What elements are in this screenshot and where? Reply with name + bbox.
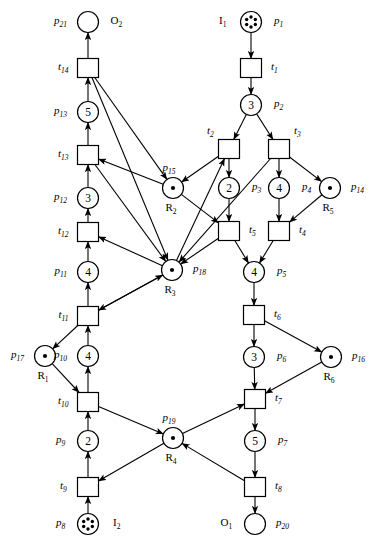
place-label-p8: p8	[56, 517, 65, 531]
resource-label-p18: R3	[165, 284, 176, 298]
place-label-p19: p19	[163, 412, 176, 426]
place-p3: 2	[219, 178, 240, 199]
transition-label-t6: t6	[274, 308, 281, 322]
arc-t6-to-p16	[265, 321, 322, 352]
place-capacity: 3	[251, 351, 257, 363]
arc-t5-to-p5	[235, 241, 249, 264]
place-p16	[321, 347, 342, 368]
place-p4: 4	[269, 178, 290, 199]
transition-t13	[78, 146, 99, 165]
place-p20	[245, 514, 266, 535]
resource-label-p17: R1	[38, 370, 49, 384]
place-label-p20: p20	[276, 517, 289, 531]
place-label-p18: p18	[193, 263, 206, 277]
arc-p18-to-t2	[176, 159, 224, 261]
arc-t8-to-p19	[182, 443, 244, 480]
arc-p17-to-t10	[52, 364, 79, 393]
place-label-p12: p12	[54, 191, 67, 205]
place-p7: 5	[245, 431, 266, 452]
transition-t1	[241, 59, 262, 78]
place-p11: 4	[78, 262, 99, 283]
place-capacity: 2	[226, 182, 232, 194]
transition-t4	[269, 222, 290, 241]
place-capacity: 4	[85, 266, 91, 278]
transition-t2	[219, 140, 240, 159]
arc-t14-to-p15	[95, 78, 167, 180]
place-label-p7: p7	[278, 434, 287, 448]
transition-label-t8: t8	[275, 480, 282, 494]
transition-t8	[245, 478, 266, 497]
resource-label-p15: R2	[166, 202, 177, 216]
transition-label-t13: t13	[58, 148, 69, 162]
arc-t4-to-p5	[259, 241, 273, 264]
place-p10: 4	[78, 346, 99, 367]
arc-p2-to-t2	[234, 114, 247, 139]
place-capacity: 3	[248, 99, 254, 111]
place-p8	[78, 514, 99, 535]
place-p6: 3	[244, 347, 265, 368]
petri-net-diagram: 53442324435 p21O2p13p12p11p10p9p8I2p1I1p…	[0, 0, 375, 546]
arc-p18-to-t11	[99, 275, 163, 310]
transition-t3	[269, 140, 290, 159]
transition-label-t2: t2	[207, 125, 214, 139]
arc-p15-to-t5	[181, 194, 218, 223]
transition-t14	[78, 59, 99, 78]
place-capacity: 4	[251, 266, 257, 278]
transition-label-t7: t7	[275, 392, 282, 406]
transition-t12	[78, 223, 99, 242]
place-p15	[163, 178, 184, 199]
place-label-p2: p2	[274, 98, 283, 112]
place-capacity: 4	[85, 350, 91, 362]
place-p12: 3	[78, 188, 99, 209]
io-label-p8: I2	[113, 517, 120, 531]
place-label-p13: p13	[54, 105, 67, 119]
place-p17	[35, 346, 56, 367]
place-capacity: 3	[85, 192, 91, 204]
place-label-p10: p10	[54, 349, 67, 363]
place-label-p1: p1	[274, 15, 283, 29]
transition-label-t11: t11	[59, 309, 69, 323]
resource-label-p16: R6	[324, 371, 335, 385]
place-label-p17: p17	[11, 349, 24, 363]
resource-label-p14: R5	[323, 202, 334, 216]
arc-t2-to-p15	[182, 156, 219, 182]
transition-label-t5: t5	[249, 224, 256, 238]
place-p19	[163, 428, 184, 449]
arc-p19-to-t9	[99, 443, 164, 481]
place-label-p4: p4	[302, 181, 311, 195]
place-p2: 3	[241, 95, 262, 116]
arc-t14-to-p18	[92, 78, 168, 261]
io-label-p20: O1	[221, 517, 233, 531]
place-capacity: 2	[85, 435, 91, 447]
io-label-p1: I1	[219, 15, 226, 29]
transition-label-t14: t14	[58, 61, 69, 75]
place-label-p14: p14	[351, 181, 364, 195]
transition-t5	[219, 222, 240, 241]
arc-t13-to-p18	[95, 165, 166, 262]
place-capacity: 4	[276, 182, 282, 194]
place-label-p5: p5	[277, 265, 286, 279]
transition-label-t4: t4	[299, 224, 306, 238]
transition-t10	[78, 393, 99, 412]
resource-label-p19: R4	[166, 452, 177, 466]
place-label-p6: p6	[277, 350, 286, 364]
place-capacity: 5	[85, 106, 91, 118]
transition-label-t1: t1	[271, 61, 278, 75]
arc-p6-to-t7	[254, 367, 255, 389]
place-p13: 5	[78, 102, 99, 123]
place-label-p9: p9	[56, 434, 65, 448]
arc-t11-to-p17	[53, 326, 78, 349]
place-capacity: 5	[252, 435, 258, 447]
arc-t3-to-p14	[290, 157, 322, 182]
arc-p2-to-t3	[257, 114, 273, 140]
arc-t5-to-p18	[181, 238, 219, 264]
place-p21	[78, 12, 99, 33]
place-p1	[241, 12, 262, 33]
io-label-p21: O2	[111, 15, 123, 29]
arc-t10-to-p19	[99, 406, 164, 433]
place-label-p16: p16	[352, 350, 365, 364]
transition-t7	[245, 390, 266, 409]
transition-label-t3: t3	[294, 125, 301, 139]
arc-p18-to-t12	[99, 237, 163, 266]
arc-p16-to-t7	[266, 362, 322, 393]
